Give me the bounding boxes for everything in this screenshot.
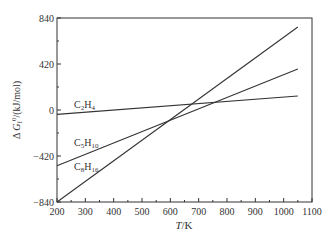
series-label-c2h4: C2H4 [74, 99, 95, 112]
x-tick-label: 500 [135, 206, 150, 217]
y-tick-label: 840 [39, 13, 54, 24]
series-line-c8h16 [57, 27, 298, 202]
series-label-c5h10: C5H10 [74, 137, 99, 150]
x-tick-label: 900 [248, 206, 263, 217]
x-tick-label: 400 [106, 206, 121, 217]
x-tick-label: 700 [191, 206, 206, 217]
x-axis-ticks: 20030040050060070080090010001100 [50, 198, 322, 217]
x-tick-label: 1100 [302, 206, 322, 217]
series-line-c5h10 [57, 69, 298, 166]
series-label-c8h16: C8H16 [74, 161, 99, 174]
x-tick-label: 200 [50, 206, 65, 217]
y-axis-label: Δ Gf0/(kJ/mol) [10, 81, 24, 139]
x-tick-label: 600 [163, 206, 178, 217]
series-labels: C2H4C5H10C8H16 [74, 99, 99, 174]
x-tick-label: 1000 [274, 206, 294, 217]
chart: 20030040050060070080090010001100 −840−42… [0, 0, 334, 243]
data-lines [57, 27, 298, 202]
y-tick-label: 420 [39, 59, 54, 70]
y-tick-label: −840 [33, 197, 54, 208]
y-tick-label: −420 [33, 151, 54, 162]
y-tick-label: 0 [49, 105, 54, 116]
x-tick-label: 800 [220, 206, 235, 217]
x-axis-label: T/K [175, 219, 192, 231]
x-tick-label: 300 [78, 206, 93, 217]
